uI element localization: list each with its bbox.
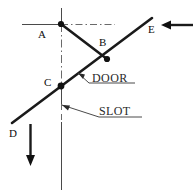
door-label: DOOR [92, 71, 128, 85]
member-d-e [12, 18, 152, 123]
force-arrow-right [161, 21, 193, 30]
mechanism-diagram: A B C D E DOOR SLOT [0, 0, 193, 196]
point-label-b: B [99, 36, 106, 48]
joint-marker-c [58, 83, 65, 90]
joint-marker-a [58, 21, 64, 27]
point-label-d: D [9, 127, 17, 139]
diagram-canvas: A B C D E DOOR SLOT [0, 0, 193, 196]
slot-label: SLOT [99, 104, 131, 118]
point-label-e: E [148, 23, 155, 35]
point-label-c: C [44, 76, 51, 88]
force-arrow-down [26, 124, 35, 166]
point-label-a: A [38, 28, 46, 40]
slot-leader-arrowhead [62, 105, 70, 111]
force-arrow-down-head [26, 155, 35, 166]
force-arrow-right-head [161, 21, 171, 30]
linkage-members [12, 18, 152, 123]
joint-marker-b [104, 56, 110, 62]
